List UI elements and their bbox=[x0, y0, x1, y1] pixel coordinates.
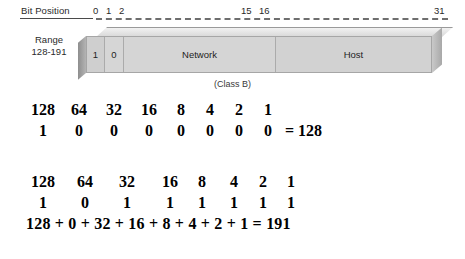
bit-tick-31: 31 bbox=[434, 5, 445, 16]
address-format-bar: 1 0 Network Host bbox=[86, 27, 442, 73]
bit-value-32: 1 bbox=[114, 192, 140, 213]
range-label: Range 128-191 bbox=[18, 34, 80, 58]
bit-value-64: 0 bbox=[66, 120, 92, 141]
place-value-row-2: 128 64 32 16 8 4 2 1 bbox=[0, 171, 465, 192]
bit-value-32: 0 bbox=[101, 120, 127, 141]
place-value-64: 64 bbox=[66, 99, 92, 120]
segment-leading-bit-2-label: 0 bbox=[111, 49, 116, 60]
bit-value-1: 0 bbox=[259, 120, 277, 141]
bit-value-128: 1 bbox=[26, 192, 60, 213]
place-value-32: 32 bbox=[101, 99, 127, 120]
range-title: Range bbox=[18, 34, 80, 46]
bit-tick-0: 0 bbox=[93, 5, 98, 16]
segment-leading-bit-2: 0 bbox=[104, 37, 123, 72]
result-128: = 128 bbox=[285, 120, 322, 141]
place-value-16: 16 bbox=[136, 99, 162, 120]
bit-value-16: 0 bbox=[136, 120, 162, 141]
bit-ruler-dashed-line bbox=[96, 18, 448, 20]
bar-right-depth-face bbox=[432, 28, 442, 73]
place-value-2: 2 bbox=[254, 171, 272, 192]
bit-value-8: 0 bbox=[172, 120, 190, 141]
sum-expression-191: 128 + 0 + 32 + 16 + 8 + 4 + 2 + 1 = 191 bbox=[26, 213, 291, 234]
segment-network-label: Network bbox=[182, 49, 217, 60]
bit-row-1: 1 0 0 0 0 0 0 0 = 128 bbox=[0, 120, 465, 141]
segment-host-label: Host bbox=[344, 49, 364, 60]
bit-tick-2: 2 bbox=[119, 5, 124, 16]
place-value-8: 8 bbox=[193, 171, 211, 192]
segment-network: Network bbox=[123, 37, 275, 72]
bit-value-2: 0 bbox=[230, 120, 248, 141]
bit-tick-16: 16 bbox=[259, 5, 270, 16]
place-value-4: 4 bbox=[225, 171, 243, 192]
bit-value-4: 0 bbox=[201, 120, 219, 141]
place-value-4: 4 bbox=[201, 99, 219, 120]
bit-value-128: 1 bbox=[26, 120, 60, 141]
segment-host: Host bbox=[275, 37, 431, 72]
bar-left-depth-face bbox=[78, 36, 86, 80]
place-value-64: 64 bbox=[72, 171, 98, 192]
place-value-128: 128 bbox=[26, 171, 60, 192]
bit-value-64: 0 bbox=[72, 192, 98, 213]
bit-position-label: Bit Position bbox=[21, 5, 70, 16]
bit-value-8: 1 bbox=[193, 192, 211, 213]
bit-value-2: 1 bbox=[254, 192, 272, 213]
binary-calculation-128: 128 64 32 16 8 4 2 1 1 0 0 0 0 0 0 0 = 1… bbox=[0, 99, 465, 141]
bit-value-4: 1 bbox=[225, 192, 243, 213]
bit-value-1: 1 bbox=[282, 192, 300, 213]
ip-address-class-b-diagram: Bit Position 0 1 2 15 16 31 Range 128-19… bbox=[0, 0, 465, 96]
bit-tick-1: 1 bbox=[106, 5, 111, 16]
segment-leading-bit-1: 1 bbox=[87, 37, 104, 72]
place-value-1: 1 bbox=[259, 99, 277, 120]
bit-position-underline bbox=[20, 18, 93, 19]
bit-tick-15: 15 bbox=[241, 5, 252, 16]
place-value-1: 1 bbox=[282, 171, 300, 192]
class-caption: (Class B) bbox=[0, 79, 465, 89]
bar-front-face: 1 0 Network Host bbox=[86, 36, 432, 73]
place-value-2: 2 bbox=[230, 99, 248, 120]
segment-leading-bit-1-label: 1 bbox=[93, 49, 98, 60]
range-value: 128-191 bbox=[18, 46, 80, 58]
place-value-32: 32 bbox=[114, 171, 140, 192]
place-value-128: 128 bbox=[26, 99, 60, 120]
place-value-8: 8 bbox=[172, 99, 190, 120]
binary-calculation-191: 128 64 32 16 8 4 2 1 1 0 1 1 1 1 1 1 128… bbox=[0, 171, 465, 213]
bit-value-16: 1 bbox=[157, 192, 183, 213]
bit-row-2: 1 0 1 1 1 1 1 1 bbox=[0, 192, 465, 213]
place-value-row-1: 128 64 32 16 8 4 2 1 bbox=[0, 99, 465, 120]
place-value-16: 16 bbox=[157, 171, 183, 192]
